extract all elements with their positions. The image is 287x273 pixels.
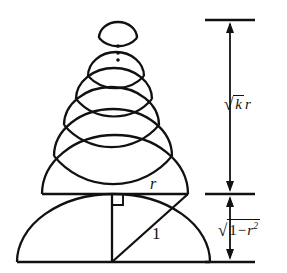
upper-dimension-arrowhead-up-icon xyxy=(226,22,234,33)
top-lens-upper-arc xyxy=(99,22,137,38)
figure-container: r 1 √kr √1−r2 xyxy=(0,0,287,273)
label-hypotenuse-one: 1 xyxy=(152,225,161,242)
semicircle-level-1 xyxy=(42,135,188,194)
stacked-semicircles-group xyxy=(42,52,188,194)
right-angle-marker-icon xyxy=(112,194,123,205)
radical-sign-icon: √ xyxy=(224,96,233,113)
radical-sqrt-one-minus-r-squared: √1−r2 xyxy=(216,219,260,239)
minus-operator: − xyxy=(237,222,247,238)
top-lens-shape-group xyxy=(99,22,137,46)
ellipsis-dot-3 xyxy=(116,58,120,62)
radicand-one-minus-r-squared: 1−r2 xyxy=(227,219,260,238)
radicand-one: 1 xyxy=(229,222,237,238)
label-upper-dimension: √kr xyxy=(222,95,251,113)
label-chord-r: r xyxy=(150,176,156,192)
label-upper-dimension-suffix: r xyxy=(244,96,251,112)
radicand-k: k xyxy=(233,95,244,112)
radical-sqrt-k: √k xyxy=(222,95,244,113)
ellipsis-dot-2 xyxy=(116,51,120,55)
lower-dimension-arrowhead-down-icon xyxy=(226,249,234,260)
lower-dimension-arrowhead-up-icon xyxy=(226,196,234,207)
upper-dimension-arrowhead-down-icon xyxy=(226,181,234,192)
exponent-two: 2 xyxy=(253,220,258,231)
radical-sign-icon-2: √ xyxy=(218,222,227,239)
label-lower-dimension: √1−r2 xyxy=(216,219,260,239)
